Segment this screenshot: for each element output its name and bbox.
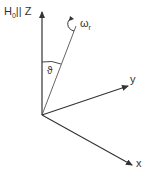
axes-diagram	[0, 0, 149, 171]
z-axis-label: H0|| Z	[4, 6, 31, 19]
angle-label: ϑ	[47, 66, 52, 76]
y-axis-label: y	[130, 74, 136, 85]
angle-arc	[42, 61, 61, 64]
rotation-label: ωr	[80, 18, 91, 31]
y-axis	[42, 86, 128, 115]
x-axis-label: x	[136, 158, 142, 169]
x-axis	[42, 115, 132, 165]
